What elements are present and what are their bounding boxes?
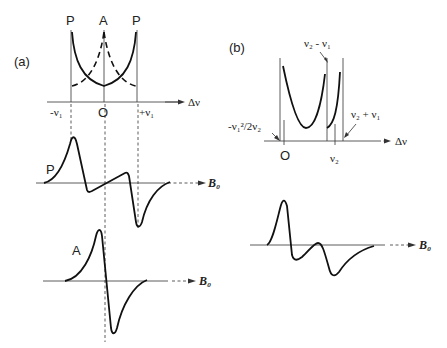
spectrum-p: B₀ P [36, 137, 220, 226]
spectrum-b: B₀ [250, 201, 431, 276]
tick-minus-nu1: -ν₁ [50, 106, 63, 118]
spectrum-a: B₀ A [43, 230, 211, 333]
panel-b-label: (b) [229, 40, 245, 55]
tick-plus-nu1: +ν₁ [139, 106, 154, 118]
powder-curve-b-small [327, 72, 340, 128]
peak-label-p-right: P [132, 13, 141, 28]
field-label-p: B₀ [207, 176, 220, 190]
annotation-nu2-minus-nu1: ν₂ - ν₁ [304, 37, 331, 49]
annotation-minus-nu1sq: -ν₁²/2ν₂ [228, 120, 261, 132]
tick-zero: O [98, 105, 108, 120]
panel-a-label: (a) [14, 54, 30, 69]
peak-label-a: A [99, 13, 108, 28]
annotation-nu2-plus-nu1: ν₂ + ν₁ [351, 108, 380, 120]
powder-curve-b-main [283, 66, 325, 128]
field-label-a: B₀ [198, 274, 211, 288]
tick-b-zero-label: O [280, 148, 290, 163]
spectrum-a-label: A [72, 243, 81, 258]
axis-arrow-icon [384, 139, 391, 144]
tick-b-nu2-label: ν₂ [330, 152, 339, 164]
field-arrow-icon [198, 181, 206, 186]
axis-label-b: Δν [395, 135, 407, 147]
spectrum-p-curve [44, 137, 170, 226]
spectrum-b-curve [267, 201, 374, 276]
field-label-b: B₀ [418, 238, 431, 252]
field-arrow-icon [408, 243, 416, 248]
peak-label-p-left: P [66, 13, 75, 28]
axis-arrow-icon [178, 100, 185, 105]
spectrum-p-label: P [46, 162, 55, 177]
field-arrow-icon [188, 279, 196, 284]
axis-label-a: Δν [188, 96, 200, 108]
panel-a: (a) P A P Δν -ν₁ O +ν₁ B₀ P [14, 13, 220, 342]
diagram-canvas: (a) P A P Δν -ν₁ O +ν₁ B₀ P [0, 0, 447, 348]
panel-b: (b) ν₂ - ν₁ Δν ν₂ + ν₁ -ν₁²/2ν₂ O ν₂ [228, 37, 431, 275]
